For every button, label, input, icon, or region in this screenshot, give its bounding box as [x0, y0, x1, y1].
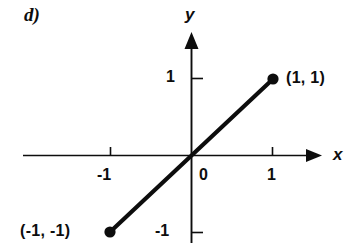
origin-label: 0: [199, 167, 208, 183]
y-tick-label-1: 1: [166, 69, 175, 85]
point-annotation-1-1: (1, 1): [286, 70, 325, 86]
x-axis-arrowhead: [306, 149, 322, 162]
x-tick-label-neg1: -1: [97, 167, 111, 183]
point-annotation-neg1-neg1: (-1, -1): [20, 223, 70, 239]
y-tick-label-neg1: -1: [155, 223, 169, 239]
x-tick-label-1: 1: [267, 167, 276, 183]
data-point-marker-neg1-neg1: [104, 226, 115, 237]
coordinate-plot: [0, 0, 360, 243]
x-axis-label: x: [333, 146, 342, 163]
data-point-marker-pos1-pos1: [267, 73, 278, 84]
part-label: d): [24, 5, 40, 24]
y-axis-arrowhead: [185, 32, 199, 49]
y-axis-label: y: [185, 6, 194, 23]
figure-canvas: d) y x 1 -1 -1 1 0 (1, 1) (-1, -1): [0, 0, 360, 243]
